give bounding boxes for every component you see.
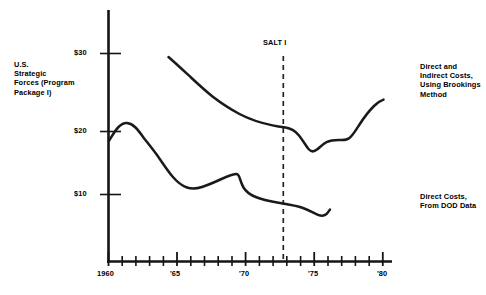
x-axis-tick-label-70: '70 <box>239 269 249 278</box>
x-axis-tick-label-80: '80 <box>377 269 387 278</box>
x-axis-tick-label-75: '75 <box>308 269 318 278</box>
y-axis-title: U.S. Strategic Forces (Program Package I… <box>14 60 106 97</box>
series-line-upper <box>169 57 384 151</box>
y-axis-tick-label-20: $20 <box>74 126 87 135</box>
series-label-upper: Direct and Indirect Costs, Using Brookin… <box>420 62 486 99</box>
x-axis-tick-label-1960: 1960 <box>97 269 114 278</box>
y-axis-tick-label-30: $30 <box>74 48 87 57</box>
chart-plot-area <box>0 0 486 295</box>
axis-lines <box>107 10 392 263</box>
chart-figure: U.S. Strategic Forces (Program Package I… <box>0 0 486 295</box>
salt-annotation-label: SALT I <box>263 38 286 47</box>
series-line-lower <box>109 123 330 216</box>
series-label-lower: Direct Costs, From DOD Data <box>420 192 486 210</box>
x-axis-tick-label-65: '65 <box>170 269 180 278</box>
y-axis-tick-label-10: $10 <box>74 189 87 198</box>
